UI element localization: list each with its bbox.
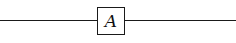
input-wire <box>0 20 97 21</box>
block-a: A <box>97 7 125 35</box>
block-a-label: A <box>105 13 117 30</box>
output-wire <box>125 20 236 21</box>
